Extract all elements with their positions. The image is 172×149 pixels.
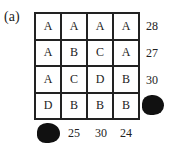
row-sum: 27 <box>146 46 158 61</box>
grid-cell: B <box>113 93 139 120</box>
grid-cell: D <box>35 93 61 120</box>
grid-cell: A <box>35 40 61 67</box>
letter-grid: A A A A A B C A A C D B D B B B <box>34 12 140 120</box>
col-sum: 30 <box>95 126 107 141</box>
row-sum: 30 <box>146 73 158 88</box>
row-sum: 28 <box>146 19 158 34</box>
col-sum: 24 <box>120 126 132 141</box>
grid-cell: C <box>61 66 87 93</box>
grid-cell: A <box>35 13 61 40</box>
grid-cell: B <box>113 66 139 93</box>
col-sum: 25 <box>68 126 80 141</box>
grid-cell: A <box>35 66 61 93</box>
figure-label: (a) <box>4 9 20 25</box>
grid-cell: B <box>87 93 113 120</box>
ink-blot-icon <box>142 95 164 115</box>
grid-cell: A <box>113 40 139 67</box>
grid-cell: A <box>61 13 87 40</box>
grid-cell: A <box>113 13 139 40</box>
grid-cell: A <box>87 13 113 40</box>
grid-cell: B <box>61 40 87 67</box>
ink-blot-icon <box>37 123 60 143</box>
grid-cell: D <box>87 66 113 93</box>
grid-cell: C <box>87 40 113 67</box>
grid-cell: B <box>61 93 87 120</box>
